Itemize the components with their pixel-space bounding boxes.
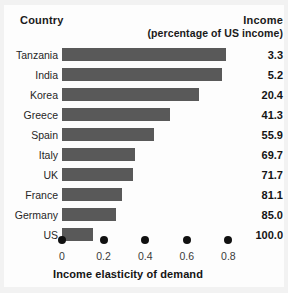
table-row: Germany85.0 xyxy=(0,206,288,226)
axis-tick-dot xyxy=(224,236,232,244)
bar-track xyxy=(62,48,226,61)
bar-track xyxy=(62,148,135,161)
row-value-income: 81.1 xyxy=(223,189,283,201)
x-axis-title: Income elasticity of demand xyxy=(0,268,256,280)
column-header-country: Country xyxy=(20,14,64,26)
table-row: India5.2 xyxy=(0,66,288,86)
row-value-income: 41.3 xyxy=(223,109,283,121)
row-value-income: 5.2 xyxy=(223,69,283,81)
axis-tick-label: 0.6 xyxy=(167,250,207,262)
axis-tick-dot xyxy=(183,236,191,244)
row-label-country: France xyxy=(0,189,58,201)
column-header-income-sublabel: (percentage of US income) xyxy=(53,27,283,39)
bar-track xyxy=(62,188,122,201)
row-label-country: Germany xyxy=(0,209,58,221)
axis-tick-dot xyxy=(100,236,108,244)
bar-track xyxy=(62,208,116,221)
income-elasticity-chart: Country Income (percentage of US income)… xyxy=(0,0,288,293)
row-label-country: India xyxy=(0,69,58,81)
bar xyxy=(62,88,199,101)
bar xyxy=(62,168,133,181)
table-row: Greece41.3 xyxy=(0,106,288,126)
bar xyxy=(62,188,122,201)
bar-track xyxy=(62,68,222,81)
axis-tick-dot xyxy=(141,236,149,244)
row-label-country: Italy xyxy=(0,149,58,161)
axis-tick-dot xyxy=(58,236,66,244)
row-value-income: 3.3 xyxy=(223,49,283,61)
table-row: Spain55.9 xyxy=(0,126,288,146)
row-value-income: 85.0 xyxy=(223,209,283,221)
paper-edge-top xyxy=(0,0,288,5)
bar-plot-area: Tanzania3.3India5.2Korea20.4Greece41.3Sp… xyxy=(0,46,288,246)
bar xyxy=(62,108,170,121)
bar-track xyxy=(62,168,133,181)
bar xyxy=(62,148,135,161)
x-axis: Income elasticity of demand 00.20.40.60.… xyxy=(0,236,288,293)
row-value-income: 69.7 xyxy=(223,149,283,161)
table-row: Italy69.7 xyxy=(0,146,288,166)
bar xyxy=(62,208,116,221)
row-label-country: Greece xyxy=(0,109,58,121)
bar xyxy=(62,128,154,141)
bar xyxy=(62,68,222,81)
axis-tick-label: 0.2 xyxy=(84,250,124,262)
table-row: Tanzania3.3 xyxy=(0,46,288,66)
bar-track xyxy=(62,128,154,141)
row-label-country: UK xyxy=(0,169,58,181)
row-value-income: 55.9 xyxy=(223,129,283,141)
row-label-country: Spain xyxy=(0,129,58,141)
bar-track xyxy=(62,88,199,101)
axis-tick-label: 0.4 xyxy=(125,250,165,262)
table-row: Korea20.4 xyxy=(0,86,288,106)
row-value-income: 71.7 xyxy=(223,169,283,181)
row-label-country: Korea xyxy=(0,89,58,101)
table-row: UK71.7 xyxy=(0,166,288,186)
axis-tick-label: 0 xyxy=(42,250,82,262)
axis-tick-label: 0.8 xyxy=(208,250,248,262)
row-value-income: 20.4 xyxy=(223,89,283,101)
bar-track xyxy=(62,108,170,121)
table-row: France81.1 xyxy=(0,186,288,206)
row-label-country: Tanzania xyxy=(0,49,58,61)
bar xyxy=(62,48,226,61)
column-header-income: Income xyxy=(83,14,283,26)
